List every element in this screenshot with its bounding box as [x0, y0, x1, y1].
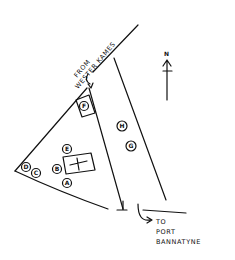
svg-text:B: B	[55, 165, 60, 172]
north-arrow-icon: N	[163, 50, 172, 100]
north-label: N	[164, 50, 169, 57]
svg-text:D: D	[24, 163, 29, 170]
road-left-line	[89, 88, 123, 209]
to-label: TO	[155, 218, 166, 226]
church-building-icon	[63, 153, 95, 174]
svg-text:A: A	[65, 179, 70, 186]
svg-text:C: C	[34, 169, 39, 176]
marker-f[interactable]: F	[80, 102, 89, 111]
marker-e[interactable]: E	[63, 145, 72, 154]
svg-text:H: H	[119, 122, 124, 129]
arrow-to-port-bannatyne	[138, 204, 152, 223]
marker-h[interactable]: H	[117, 121, 127, 131]
hand-drawn-map: N FROM WESTER KAMES TO PORT BANNATYNE F …	[0, 0, 235, 260]
marker-d[interactable]: D	[22, 163, 31, 172]
marker-b[interactable]: B	[53, 165, 62, 174]
svg-text:F: F	[82, 102, 86, 109]
svg-text:G: G	[129, 142, 134, 149]
port-label: PORT	[156, 228, 175, 236]
road-bottom-line	[143, 210, 186, 213]
marker-g[interactable]: G	[126, 141, 136, 151]
svg-text:E: E	[65, 145, 69, 152]
marker-a[interactable]: A	[63, 179, 72, 188]
sector-arc	[15, 171, 108, 209]
marker-c[interactable]: C	[32, 169, 41, 178]
bannatyne-label: BANNATYNE	[156, 238, 201, 246]
